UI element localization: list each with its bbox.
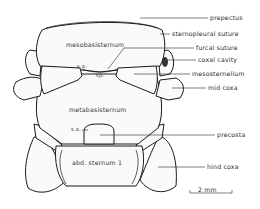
callout-hind-coxa: hind coxa (207, 163, 239, 170)
abdominal-sternum-1 (55, 146, 143, 186)
callout-precosta: precosta (217, 131, 245, 139)
label-metabasisternum: metabasisternum (69, 106, 126, 113)
label-sa-upper: s.a. (77, 63, 87, 69)
callout-coxal-cavity: coxal cavity (198, 56, 237, 64)
callout-prepectus: prepectus (210, 14, 243, 22)
callout-furcal-suture: furcal suture (196, 44, 238, 51)
sternum-diagram: mesobasisternum s.a. sp. metabasisternum… (0, 0, 260, 209)
callout-mesosternellum: mesosternellum (192, 70, 245, 77)
mid-coxa-left (14, 77, 44, 100)
scale-bar: 2 mm (190, 186, 232, 193)
precosta-shape (84, 124, 114, 144)
mid-coxa-right (156, 78, 183, 100)
callout-mid-coxa: mid coxa (208, 84, 238, 91)
label-sp: sp. (96, 72, 104, 79)
label-abd-sternum-1: abd. sternum 1 (72, 159, 122, 166)
label-sa-lower: s.a. (71, 126, 81, 132)
callout-sternopleural-suture: sternopleural suture (172, 30, 239, 38)
label-mesobasisternum: mesobasisternum (66, 41, 124, 48)
scale-bar-label: 2 mm (198, 186, 217, 193)
